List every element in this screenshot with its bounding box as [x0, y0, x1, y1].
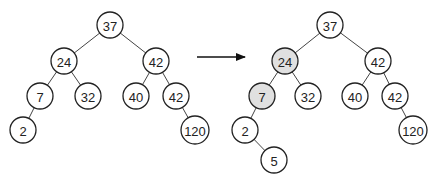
node-label: 32	[81, 90, 95, 105]
bst-diagram: 37244273240422120 372442732404221205	[0, 0, 437, 181]
node-label: 2	[241, 124, 248, 139]
node-label: 24	[57, 55, 71, 70]
tree-node-120: 120	[399, 116, 427, 144]
node-label: 24	[278, 55, 292, 70]
node-label: 42	[169, 90, 183, 105]
tree-node-120: 120	[181, 116, 209, 144]
node-label: 32	[301, 90, 315, 105]
tree-node-5: 5	[261, 147, 287, 173]
tree-node-2: 2	[232, 117, 258, 143]
node-label: 120	[184, 124, 206, 139]
tree-node-32: 32	[75, 83, 101, 109]
node-label: 40	[129, 90, 143, 105]
tree-node-40: 40	[342, 83, 368, 109]
node-label: 42	[388, 90, 402, 105]
tree-after-insertion: 372442732404221205	[232, 12, 427, 173]
node-label: 2	[19, 124, 26, 139]
node-label: 40	[348, 90, 362, 105]
tree-node-42: 42	[143, 48, 169, 74]
node-label: 5	[270, 154, 277, 169]
tree-node-2: 2	[10, 117, 36, 143]
tree-before-insertion: 37244273240422120	[10, 12, 209, 144]
node-label: 37	[323, 19, 337, 34]
node-label: 37	[103, 19, 117, 34]
tree-node-42: 42	[382, 83, 408, 109]
tree-node-37: 37	[317, 12, 343, 38]
tree-node-40: 40	[123, 83, 149, 109]
tree-node-7: 7	[27, 83, 53, 109]
node-label: 42	[149, 55, 163, 70]
node-label: 120	[402, 124, 424, 139]
node-label: 7	[36, 90, 43, 105]
node-label: 7	[258, 90, 265, 105]
node-label: 42	[371, 55, 385, 70]
tree-node-42: 42	[365, 48, 391, 74]
tree-node-42: 42	[163, 83, 189, 109]
tree-node-24: 24	[51, 48, 77, 74]
tree-node-24: 24	[272, 48, 298, 74]
tree-node-37: 37	[97, 12, 123, 38]
tree-node-7: 7	[249, 83, 275, 109]
tree-node-32: 32	[295, 83, 321, 109]
